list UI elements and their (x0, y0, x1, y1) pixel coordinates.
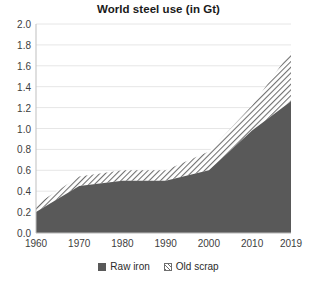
chart-title: World steel use (in Gt) (0, 3, 317, 15)
x-tick-label: 2000 (198, 238, 220, 249)
x-tick-label: 1980 (111, 238, 133, 249)
x-tick-label: 1990 (155, 238, 177, 249)
legend-entry-old-scrap[interactable]: Old scrap (164, 261, 219, 272)
x-tick-label: 2010 (241, 238, 263, 249)
chart-legend: Raw iron Old scrap (0, 261, 317, 272)
legend-label-old-scrap: Old scrap (176, 261, 219, 272)
x-tick-label: 2019 (280, 238, 302, 249)
plot-svg (0, 18, 317, 240)
x-axis: 1960197019801990200020102019 (0, 238, 317, 254)
x-tick-label: 1960 (25, 238, 47, 249)
solid-dark-gray-swatch-icon (98, 263, 106, 271)
legend-label-raw-iron: Raw iron (110, 261, 149, 272)
legend-entry-raw-iron[interactable]: Raw iron (98, 261, 149, 272)
world-steel-use-area-chart: World steel use (in Gt) 0.00.20.40.60.81… (0, 0, 317, 285)
stacked-areas (36, 51, 291, 233)
x-tick-label: 1970 (68, 238, 90, 249)
plot-area (0, 18, 317, 240)
hatched-swatch-icon (164, 263, 172, 271)
